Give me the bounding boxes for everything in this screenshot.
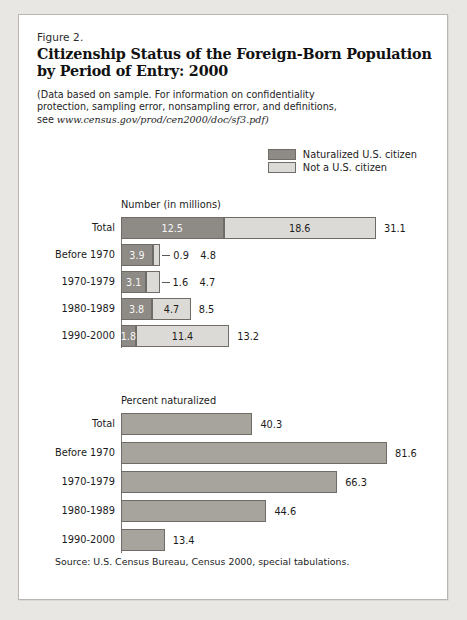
bar-segment-naturalized: 3.1 — [121, 271, 146, 293]
chart-row-label: 1970-1979 — [37, 471, 115, 493]
figure-page: Figure 2. Citizenship Status of the Fore… — [0, 0, 467, 620]
legend-item: Not a U.S. citizen — [268, 162, 417, 173]
chart-row-label: Total — [37, 413, 115, 435]
bar-segment-not-citizen — [153, 244, 160, 266]
chart-row: 1990-20001.811.413.2 — [37, 325, 433, 347]
figure-subtitle-line-3: see www.census.gov/prod/cen2000/doc/sf3.… — [37, 114, 367, 126]
bar-segment-naturalized: 3.8 — [121, 298, 152, 320]
figure-inner: Figure 2. Citizenship Status of the Fore… — [37, 31, 433, 589]
chart-bar — [121, 529, 165, 551]
chart-row: Before 197081.6 — [37, 442, 433, 464]
legend-item-label: Not a U.S. citizen — [303, 162, 387, 173]
value-leader-line — [162, 282, 170, 283]
chart-row: Total12.518.631.1 — [37, 217, 433, 239]
chart-row-label: 1980-1989 — [37, 298, 115, 320]
chart-row-label: 1970-1979 — [37, 271, 115, 293]
chart-title: Number (in millions) — [121, 199, 221, 210]
chart-bar: 3.1 — [121, 271, 160, 293]
chart-bar: 1.811.4 — [121, 325, 229, 347]
chart-bar — [121, 442, 387, 464]
figure-source: Source: U.S. Census Bureau, Census 2000,… — [55, 556, 349, 567]
chart-row-label: 1990-2000 — [37, 529, 115, 551]
figure-card: Figure 2. Citizenship Status of the Fore… — [18, 14, 448, 600]
legend-item-label: Naturalized U.S. citizen — [303, 149, 417, 160]
bar-segment-value: 18.6 — [225, 218, 376, 238]
bar-segment-value: 1.6 — [173, 271, 189, 293]
bar-segment-not-citizen: 4.7 — [152, 298, 191, 320]
figure-subtitle: (Data based on sample. For information o… — [37, 89, 367, 126]
chart-row: Total40.3 — [37, 413, 433, 435]
bar-segment-not-citizen: 11.4 — [136, 325, 229, 347]
legend-swatch-icon — [268, 162, 296, 173]
bar-total-value: 4.7 — [200, 271, 216, 293]
chart-bar: 12.518.6 — [121, 217, 376, 239]
chart-bar: 3.84.7 — [121, 298, 191, 320]
bar-segment-value: 3.8 — [122, 299, 151, 319]
chart-bar — [121, 471, 337, 493]
figure-subtitle-line-2: protection, sampling error, nonsampling … — [37, 101, 367, 113]
chart-bar — [121, 500, 266, 522]
figure-title: Citizenship Status of the Foreign-Born P… — [37, 46, 433, 80]
bar-segment-not-citizen: 18.6 — [224, 217, 377, 239]
chart-number-in-millions: Number (in millions)Total12.518.631.1Bef… — [37, 199, 433, 359]
chart-row: 1970-197966.3 — [37, 471, 433, 493]
chart-row-label: 1980-1989 — [37, 500, 115, 522]
legend-item: Naturalized U.S. citizen — [268, 149, 417, 160]
bar-total-value: 13.2 — [237, 325, 259, 347]
legend-swatch-icon — [268, 149, 296, 160]
figure-title-line-2: by Period of Entry: 2000 — [37, 63, 433, 80]
bar-segment-value: 3.9 — [122, 245, 152, 265]
subtitle-url: www.census.gov/prod/cen2000/doc/sf3.pdf) — [57, 114, 269, 125]
figure-subtitle-line-1: (Data based on sample. For information o… — [37, 89, 367, 101]
bar-value-label: 40.3 — [260, 413, 282, 435]
bar-segment-naturalized: 3.9 — [121, 244, 153, 266]
bar-total-value: 4.8 — [200, 244, 216, 266]
chart-row: 1980-198944.6 — [37, 500, 433, 522]
bar-value-label: 81.6 — [395, 442, 417, 464]
value-leader-line — [162, 255, 170, 256]
bar-segment-value: 4.7 — [153, 299, 190, 319]
bar-segment-value: 1.8 — [122, 326, 135, 346]
chart-row: Before 19703.90.94.8 — [37, 244, 433, 266]
bar-segment-value: 12.5 — [122, 218, 223, 238]
chart-bar — [121, 413, 252, 435]
figure-title-line-1: Citizenship Status of the Foreign-Born P… — [37, 46, 433, 63]
chart-row: 1980-19893.84.78.5 — [37, 298, 433, 320]
bar-total-value: 8.5 — [199, 298, 215, 320]
bar-value-label: 44.6 — [274, 500, 296, 522]
bar-segment-not-citizen — [146, 271, 159, 293]
chart-row-label: Total — [37, 217, 115, 239]
bar-segment-value: 3.1 — [122, 272, 145, 292]
chart-row: 1970-19793.11.64.7 — [37, 271, 433, 293]
chart-percent-naturalized: Percent naturalizedTotal40.3Before 19708… — [37, 395, 433, 565]
chart-legend: Naturalized U.S. citizenNot a U.S. citiz… — [268, 149, 417, 175]
bar-segment-value: 11.4 — [137, 326, 228, 346]
bar-total-value: 31.1 — [384, 217, 406, 239]
bar-segment-naturalized: 12.5 — [121, 217, 224, 239]
bar-value-label: 66.3 — [345, 471, 367, 493]
chart-bar: 3.9 — [121, 244, 160, 266]
bar-value-label: 13.4 — [173, 529, 195, 551]
bar-segment-naturalized: 1.8 — [121, 325, 136, 347]
figure-number: Figure 2. — [37, 31, 433, 43]
chart-title: Percent naturalized — [121, 395, 216, 406]
chart-row-label: Before 1970 — [37, 244, 115, 266]
chart-row: 1990-200013.4 — [37, 529, 433, 551]
chart-row-label: Before 1970 — [37, 442, 115, 464]
chart-row-label: 1990-2000 — [37, 325, 115, 347]
bar-segment-value: 0.9 — [173, 244, 189, 266]
subtitle-see-prefix: see — [37, 114, 57, 125]
